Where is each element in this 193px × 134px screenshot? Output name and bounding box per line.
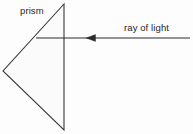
ray-of-light-label: ray of light	[124, 22, 169, 33]
prism-label: prism	[20, 5, 44, 16]
diagram-canvas	[0, 0, 193, 134]
prism-ray-diagram: prism ray of light	[0, 0, 193, 134]
ray-arrowhead-icon	[86, 35, 96, 42]
prism-triangle	[3, 4, 64, 130]
